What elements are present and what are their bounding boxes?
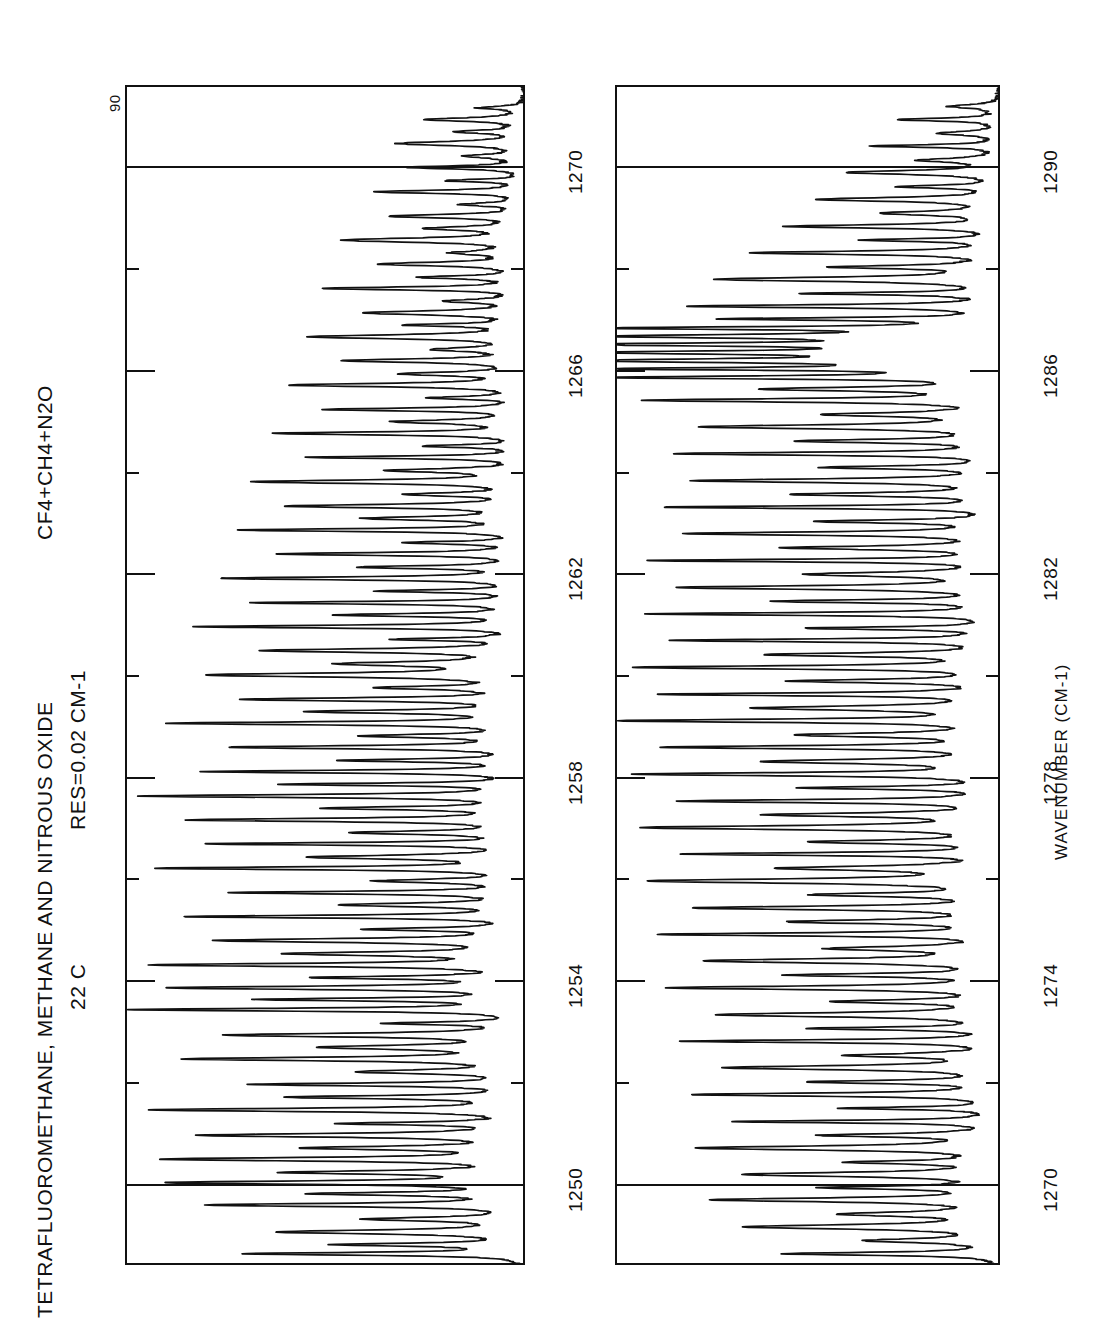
top-spectrum-panel: [125, 85, 525, 1265]
tick-1288-right: [986, 268, 1000, 270]
resolution-label: RES=0.02 CM-1: [66, 670, 90, 830]
tick-1260-right: [511, 675, 525, 677]
tick-1276-right: [986, 878, 1000, 880]
tick-1258-left: [125, 777, 155, 779]
tick-1268-left: [125, 268, 139, 270]
temperature-label: 22 C: [66, 964, 90, 1010]
figure-title: TETRAFLUOROMETHANE, METHANE AND NITROUS …: [33, 702, 57, 1318]
bottom-spectrum-trace: [615, 85, 1000, 1265]
tick-label-1290: 1290: [1040, 150, 1062, 194]
tick-label-1278: 1278: [1040, 760, 1062, 804]
tick-1268-right: [511, 268, 525, 270]
tick-label-1286: 1286: [1040, 354, 1062, 398]
bottom-spectrum-panel: [615, 85, 1000, 1265]
gridline-1270: [125, 166, 525, 168]
tick-1284-left: [615, 472, 629, 474]
gridline-1270: [615, 1184, 1000, 1186]
tick-1252-left: [125, 1082, 139, 1084]
tick-label-1262: 1262: [565, 557, 587, 601]
mixture-label: CF4+CH4+N2O: [33, 385, 57, 540]
tick-label-1270: 1270: [1040, 1167, 1062, 1211]
top-spectrum-trace: [125, 85, 525, 1265]
y-axis-top-value: 90: [106, 94, 123, 112]
tick-1288-left: [615, 268, 629, 270]
tick-1274-right: [970, 980, 1000, 982]
tick-1256-left: [125, 878, 139, 880]
tick-label-1270: 1270: [565, 150, 587, 194]
tick-1264-right: [511, 472, 525, 474]
tick-1286-right: [970, 370, 1000, 372]
tick-1262-left: [125, 573, 155, 575]
tick-label-1266: 1266: [565, 354, 587, 398]
tick-label-1250: 1250: [565, 1167, 587, 1211]
tick-1272-left: [615, 1082, 629, 1084]
tick-1254-left: [125, 980, 155, 982]
gridline-1250: [125, 1184, 525, 1186]
tick-1282-right: [970, 573, 1000, 575]
tick-1278-left: [615, 777, 645, 779]
tick-label-1258: 1258: [565, 760, 587, 804]
tick-1286-left: [615, 370, 645, 372]
tick-1260-left: [125, 675, 139, 677]
gridline-1290: [615, 166, 1000, 168]
tick-1258-right: [495, 777, 525, 779]
tick-1274-left: [615, 980, 645, 982]
tick-1276-left: [615, 878, 629, 880]
tick-1280-left: [615, 675, 629, 677]
tick-1256-right: [511, 878, 525, 880]
tick-label-1282: 1282: [1040, 557, 1062, 601]
tick-1266-right: [495, 370, 525, 372]
tick-1272-right: [986, 1082, 1000, 1084]
tick-1278-right: [970, 777, 1000, 779]
tick-1252-right: [511, 1082, 525, 1084]
tick-1264-left: [125, 472, 139, 474]
tick-1262-right: [495, 573, 525, 575]
tick-1280-right: [986, 675, 1000, 677]
tick-label-1274: 1274: [1040, 964, 1062, 1008]
tick-1254-right: [495, 980, 525, 982]
spectrum-figure-sheet: TETRAFLUOROMETHANE, METHANE AND NITROUS …: [0, 0, 1120, 1340]
tick-1282-left: [615, 573, 645, 575]
tick-1266-left: [125, 370, 155, 372]
tick-label-1254: 1254: [565, 964, 587, 1008]
tick-1284-right: [986, 472, 1000, 474]
